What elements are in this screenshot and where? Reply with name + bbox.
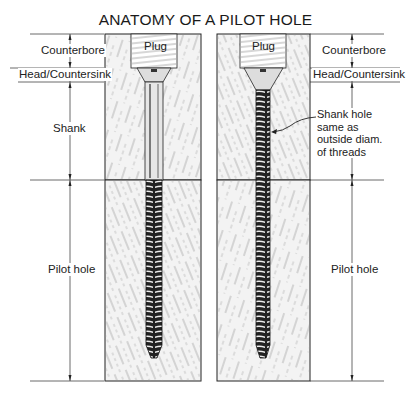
left-label-counterbore: Counterbore: [40, 44, 106, 57]
pilot-hole-diagram: [0, 0, 411, 404]
right-wood-block: [217, 34, 310, 381]
right-screw-threads: [256, 90, 270, 358]
right-label-pilot: Pilot hole: [330, 263, 379, 276]
left-label-pilot: Pilot hole: [47, 263, 96, 276]
left-dimension-lines: [10, 34, 104, 381]
right-label-head: Head/Countersink: [312, 68, 406, 81]
left-plug-label: Plug: [144, 40, 167, 52]
left-screw-shank: [145, 82, 163, 180]
shank-hole-callout: Shank hole same as outside diam. of thre…: [317, 108, 382, 158]
callout-line: same as: [317, 121, 382, 134]
left-screw-threads: [146, 180, 162, 358]
left-label-head: Head/Countersink: [18, 68, 112, 81]
callout-line: outside diam.: [317, 133, 382, 146]
callout-line: Shank hole: [317, 108, 382, 121]
callout-line: of threads: [317, 146, 382, 159]
right-plug-label: Plug: [252, 40, 275, 52]
left-wood-block: [105, 34, 201, 381]
right-dimension-lines: [310, 34, 400, 381]
left-label-shank: Shank: [52, 122, 87, 135]
right-label-counterbore: Counterbore: [321, 44, 387, 57]
